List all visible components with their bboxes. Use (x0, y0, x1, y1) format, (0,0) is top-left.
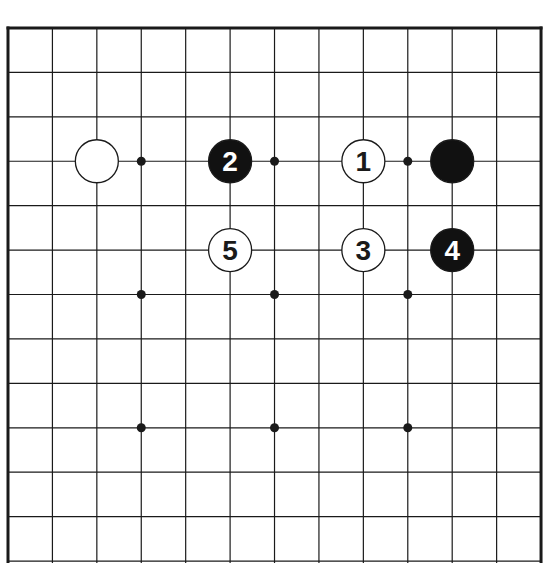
go-board: 21534 (0, 0, 551, 563)
black-stone-2: 2 (209, 140, 252, 183)
white-stone-disc (75, 140, 118, 183)
move-number-label: 3 (356, 235, 372, 266)
move-number-label: 5 (222, 235, 238, 266)
move-number-label: 2 (222, 146, 238, 177)
star-point (270, 290, 279, 299)
star-point (137, 290, 146, 299)
black-stone (431, 140, 474, 183)
black-stone-4: 4 (431, 229, 474, 272)
white-stone (75, 140, 118, 183)
star-point (270, 423, 279, 432)
star-point (137, 157, 146, 166)
star-point (403, 157, 412, 166)
white-stone-3: 3 (342, 229, 385, 272)
star-point (403, 423, 412, 432)
star-point (403, 290, 412, 299)
star-point (270, 157, 279, 166)
black-stone-disc (431, 140, 474, 183)
white-stone-5: 5 (209, 229, 252, 272)
move-number-label: 4 (444, 235, 460, 266)
star-point (137, 423, 146, 432)
white-stone-1: 1 (342, 140, 385, 183)
move-number-label: 1 (356, 146, 372, 177)
